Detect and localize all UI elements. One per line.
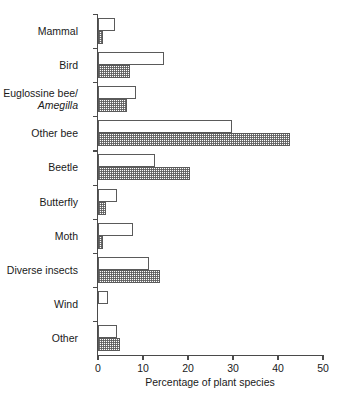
bar-open (98, 18, 115, 31)
bar-open (98, 154, 155, 167)
bar-hatched (98, 133, 290, 146)
category-label-line1: Wind (54, 298, 78, 310)
chart-category-row: Diverse insects (98, 253, 323, 287)
bar-open (98, 120, 232, 133)
x-axis-title: Percentage of plant species (97, 376, 323, 388)
x-axis-tick-label: 20 (168, 362, 208, 374)
category-label: Other (0, 332, 78, 344)
category-label-line1: Moth (55, 230, 78, 242)
category-label-line1: Mammal (38, 25, 78, 37)
x-axis-tick (187, 355, 188, 360)
x-axis-tick-label: 30 (213, 362, 253, 374)
chart-category-row: Other (98, 321, 323, 355)
bar-hatched (98, 338, 120, 351)
y-axis-tick (93, 219, 98, 220)
chart-category-row: Butterfly (98, 185, 323, 219)
x-axis-tick (322, 355, 323, 360)
bar-hatched (98, 270, 160, 283)
category-label-line1: Other bee (31, 127, 78, 139)
category-label: Butterfly (0, 196, 78, 208)
chart-category-row: Other bee (98, 116, 323, 150)
category-label: Euglossine bee/Amegilla (0, 87, 78, 111)
x-axis-tick (97, 355, 98, 360)
bar-open (98, 52, 164, 65)
chart-category-row: Euglossine bee/Amegilla (98, 82, 323, 116)
chart-category-row: Beetle (98, 150, 323, 184)
category-label: Diverse insects (0, 264, 78, 276)
x-axis-tick-label: 50 (303, 362, 339, 374)
bar-open (98, 86, 136, 99)
category-label: Beetle (0, 161, 78, 173)
category-label-line1: Euglossine bee/ (3, 87, 78, 99)
bar-chart: MammalBirdEuglossine bee/AmegillaOther b… (0, 0, 339, 397)
bar-open (98, 291, 108, 304)
category-label: Other bee (0, 127, 78, 139)
plot-area: MammalBirdEuglossine bee/AmegillaOther b… (98, 14, 323, 355)
x-axis-tick-label: 10 (123, 362, 163, 374)
y-axis-tick (93, 116, 98, 117)
category-label-line1: Butterfly (39, 196, 78, 208)
chart-category-row: Mammal (98, 14, 323, 48)
bar-hatched (98, 99, 127, 112)
category-label: Bird (0, 59, 78, 71)
category-label-line1: Diverse insects (7, 264, 78, 276)
y-axis-tick (93, 14, 98, 15)
chart-category-row: Bird (98, 48, 323, 82)
y-axis-tick (93, 150, 98, 151)
bar-hatched (98, 236, 103, 249)
x-axis-line (97, 355, 323, 356)
y-axis-tick (93, 48, 98, 49)
chart-category-row: Wind (98, 287, 323, 321)
bar-open (98, 325, 117, 338)
bar-hatched (98, 202, 106, 215)
category-label-line1: Bird (59, 59, 78, 71)
category-label: Wind (0, 298, 78, 310)
x-axis-tick (142, 355, 143, 360)
x-axis-tick-label: 40 (258, 362, 298, 374)
category-label: Mammal (0, 25, 78, 37)
x-axis-tick-label: 0 (78, 362, 118, 374)
y-axis-tick (93, 321, 98, 322)
category-label-line1: Beetle (48, 161, 78, 173)
x-axis-tick (232, 355, 233, 360)
category-label-line1: Other (52, 332, 78, 344)
category-label-genus: Amegilla (0, 99, 78, 111)
y-axis-tick (93, 253, 98, 254)
bar-hatched (98, 31, 103, 44)
y-axis-tick (93, 82, 98, 83)
bar-open (98, 189, 117, 202)
bar-open (98, 257, 149, 270)
chart-category-row: Moth (98, 219, 323, 253)
category-label: Moth (0, 230, 78, 242)
y-axis-tick (93, 185, 98, 186)
bar-hatched (98, 65, 130, 78)
bar-hatched (98, 167, 190, 180)
x-axis-tick (277, 355, 278, 360)
y-axis-tick (93, 287, 98, 288)
bar-open (98, 223, 133, 236)
